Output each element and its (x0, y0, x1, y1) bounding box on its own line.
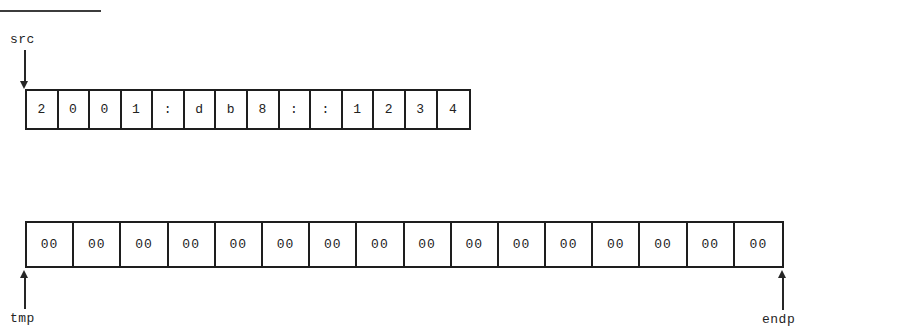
byte-cell: 4 (438, 91, 470, 128)
byte-cell: 3 (406, 91, 438, 128)
byte-cell: : (153, 91, 185, 128)
arrow-stem-tmp-icon (24, 278, 26, 309)
byte-cell: 00 (216, 223, 263, 266)
byte-cell: 00 (121, 223, 168, 266)
arrow-head-down-src-icon (20, 81, 28, 89)
byte-cell: 1 (122, 91, 154, 128)
byte-cell: 00 (27, 223, 74, 266)
header-rule (0, 10, 101, 12)
byte-cell: 00 (263, 223, 310, 266)
arrow-head-up-tmp-icon (20, 270, 28, 278)
byte-cell: : (280, 91, 312, 128)
arrow-head-up-endp-icon (778, 270, 786, 278)
byte-cell: d (185, 91, 217, 128)
byte-cell: 00 (405, 223, 452, 266)
byte-cell: 8 (248, 91, 280, 128)
tmp-buffer-row: 00000000000000000000000000000000 (25, 221, 784, 268)
byte-cell: 2 (27, 91, 59, 128)
byte-cell: 00 (169, 223, 216, 266)
pointer-label-src: src (10, 32, 35, 47)
arrow-stem-src-icon (24, 50, 26, 81)
byte-cell: 00 (593, 223, 640, 266)
byte-cell: : (311, 91, 343, 128)
byte-cell: 00 (546, 223, 593, 266)
byte-cell: 0 (59, 91, 91, 128)
byte-cell: 2 (374, 91, 406, 128)
src-buffer-row: 2001:db8::1234 (25, 89, 471, 130)
byte-cell: 00 (357, 223, 404, 266)
byte-cell: 00 (735, 223, 782, 266)
pointer-label-tmp: tmp (10, 311, 35, 326)
byte-cell: 0 (90, 91, 122, 128)
byte-cell: 00 (452, 223, 499, 266)
pointer-label-endp: endp (762, 312, 795, 327)
byte-cell: 00 (688, 223, 735, 266)
byte-cell: 00 (310, 223, 357, 266)
byte-cell: 00 (499, 223, 546, 266)
byte-cell: 00 (74, 223, 121, 266)
arrow-stem-endp-icon (782, 278, 784, 310)
byte-cell: 00 (640, 223, 687, 266)
byte-cell: 1 (343, 91, 375, 128)
byte-cell: b (216, 91, 248, 128)
